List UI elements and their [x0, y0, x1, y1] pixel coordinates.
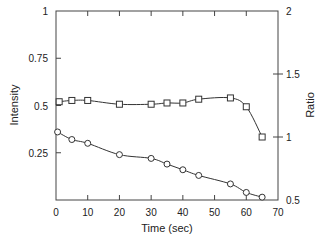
circle-marker: [85, 140, 91, 146]
square-marker: [180, 100, 186, 106]
square-marker: [259, 134, 265, 140]
circle-marker: [164, 161, 170, 167]
x-tick-label: 0: [53, 207, 59, 218]
y-tick-label-left: 1: [42, 6, 48, 17]
x-tick-label: 50: [209, 207, 221, 218]
x-tick-label: 70: [272, 207, 284, 218]
x-tick-label: 20: [114, 207, 126, 218]
y-tick-label-left: 0.5: [34, 101, 48, 112]
y-axis-label-right: Ratio: [304, 92, 316, 118]
y-tick-label-right: 0.5: [286, 195, 300, 206]
y-tick-label-right: 2: [286, 6, 292, 17]
x-axis-label: Time (sec): [141, 222, 193, 234]
x-tick-label: 10: [82, 207, 94, 218]
square-marker: [148, 101, 154, 107]
circle-marker: [196, 172, 202, 178]
square-marker: [164, 100, 170, 106]
x-tick-label: 30: [146, 207, 158, 218]
circle-marker: [116, 152, 122, 158]
y-tick-label-right: 1.5: [286, 69, 300, 80]
circle-marker: [227, 181, 233, 187]
y-tick-label-right: 1: [286, 132, 292, 143]
square-marker: [243, 104, 249, 110]
square-marker: [85, 97, 91, 103]
x-tick-label: 60: [241, 207, 253, 218]
chart: 0102030405060700.250.50.7510.511.52 Inte…: [0, 0, 324, 241]
square-marker: [116, 101, 122, 107]
circle-marker: [243, 189, 249, 195]
axis-ticks: 0102030405060700.250.50.7510.511.52: [29, 6, 301, 218]
y-axis-label-left: Intensity: [8, 84, 20, 125]
square-marker: [227, 95, 233, 101]
circle-marker: [148, 155, 154, 161]
data-series: [55, 95, 266, 200]
x-tick-label: 40: [177, 207, 189, 218]
circle-marker: [259, 194, 265, 200]
series-intensity: [55, 129, 266, 200]
y-tick-label-left: 0.25: [29, 148, 49, 159]
square-marker: [56, 99, 62, 105]
circle-marker: [55, 129, 61, 135]
square-marker: [69, 97, 75, 103]
series-ratio: [56, 95, 265, 140]
circle-marker: [180, 167, 186, 173]
circle-marker: [69, 137, 75, 143]
y-tick-label-left: 0.75: [29, 53, 49, 64]
square-marker: [196, 96, 202, 102]
